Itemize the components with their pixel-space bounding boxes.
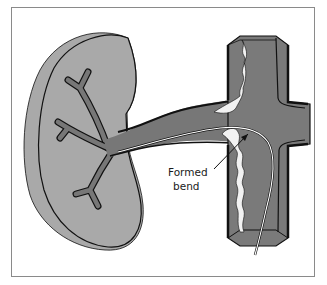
label-formed: Formed	[168, 166, 208, 178]
label-bend: bend	[173, 180, 199, 192]
vessel-wall-right-lower	[288, 144, 308, 238]
vessel-wall-right-upper	[288, 45, 308, 104]
kidney-diagram: Formed bend	[0, 0, 327, 285]
